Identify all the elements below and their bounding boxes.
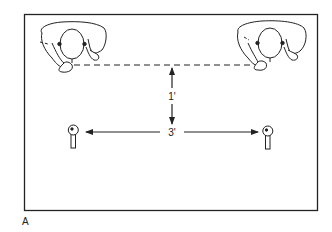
- panel-label: A: [22, 216, 29, 227]
- vertical-dimension-label: 1': [168, 91, 176, 102]
- mic-placement-diagram: 1' 3' A: [0, 0, 332, 232]
- person-right-icon: [237, 21, 306, 70]
- microphone-left-icon: [68, 125, 78, 148]
- horizontal-dimension-label: 3': [168, 127, 176, 138]
- microphone-right-icon: [263, 126, 273, 149]
